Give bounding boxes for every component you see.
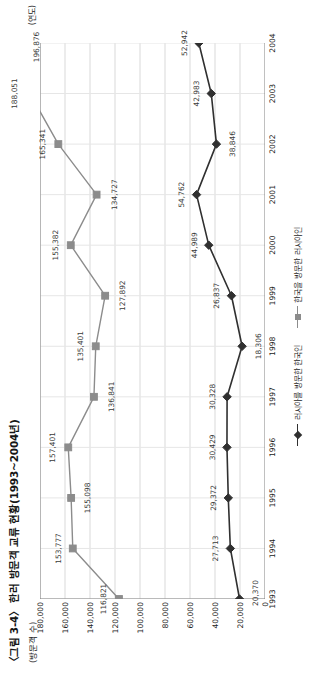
diamond-marker <box>223 443 231 451</box>
series-line-1 <box>40 43 119 599</box>
diamond-marker <box>227 292 235 300</box>
diamond-marker <box>224 494 232 502</box>
x-axis-tick-labels: 1993199419951996199719981999200020012002… <box>268 43 282 599</box>
square-marker <box>65 444 72 451</box>
legend-item-label: 러시아를 방문한 한국인 <box>292 345 303 420</box>
legend-item-1[interactable]: 러시아를 방문한 한국인 <box>292 345 303 446</box>
data-point-label: 153,777 <box>53 533 62 564</box>
x-axis-tick-label: 2002 <box>268 134 277 153</box>
diamond-marker <box>192 190 200 198</box>
x-axis-tick-label: 1994 <box>268 539 277 558</box>
data-point-label: 42,983 <box>192 81 201 107</box>
data-point-label: 30,429 <box>207 434 216 460</box>
y-axis-tick-label: 180,000 <box>36 602 45 633</box>
data-point-label: 27,713 <box>211 536 220 562</box>
x-axis-tick-label: 1993 <box>268 589 277 608</box>
square-marker <box>68 495 75 502</box>
diamond-marker <box>207 89 215 97</box>
x-axis-tick-label: 2004 <box>268 33 277 52</box>
data-point-label: 18,306 <box>254 333 263 359</box>
data-point-label: 136,841 <box>106 382 115 413</box>
legend-swatch <box>297 307 298 329</box>
x-axis-tick-label: 2001 <box>268 185 277 204</box>
data-point-label: 196,876 <box>31 32 40 63</box>
square-marker <box>102 292 109 299</box>
data-point-label: 29,372 <box>209 485 218 511</box>
square-marker <box>93 191 100 198</box>
figure-caption: 〈그림 3-4〉 한러 방문객 교류 현황(1993~2004년) <box>6 420 21 668</box>
diamond-marker <box>223 393 231 401</box>
diamond-marker <box>293 430 301 438</box>
diamond-marker <box>238 342 246 350</box>
series-line-2 <box>197 43 243 599</box>
y-axis-tick-label: 160,000 <box>61 602 70 633</box>
data-point-label: 157,401 <box>48 432 57 463</box>
y-axis-tick-label: 120,000 <box>111 602 120 633</box>
y-axis-tick-labels: 020,00040,00060,00080,000100,000120,0001… <box>40 602 265 647</box>
diamond-marker <box>205 241 213 249</box>
y-axis-tick-label: 40,000 <box>211 602 220 629</box>
data-point-label: 20,370 <box>250 580 259 606</box>
legend-item-2[interactable]: 한국을 방문한 러시아인 <box>292 227 303 328</box>
data-point-label: 135,401 <box>75 331 84 362</box>
square-marker <box>67 242 74 249</box>
rotated-page-wrapper: 〈그림 3-4〉 한러 방문객 교류 현황(1993~2004년) (방문객 수… <box>0 0 323 673</box>
y-axis-tick-label: 140,000 <box>86 602 95 633</box>
square-marker <box>116 596 123 599</box>
square-marker <box>295 315 301 321</box>
diamond-marker <box>212 140 220 148</box>
diamond-marker <box>195 43 203 47</box>
data-point-label: 134,727 <box>109 179 118 210</box>
y-axis-tick-label: 60,000 <box>186 602 195 629</box>
figure-container: 〈그림 3-4〉 한러 방문객 교류 현황(1993~2004년) (방문객 수… <box>0 0 323 673</box>
x-axis-unit-label: (연도) <box>26 5 37 25</box>
x-axis-tick-label: 2003 <box>268 84 277 103</box>
x-axis-tick-label: 1998 <box>268 337 277 356</box>
plot-area: 116,821153,777155,098157,401136,841135,4… <box>40 43 265 599</box>
data-point-label: 30,328 <box>208 384 217 410</box>
y-axis-tick-label: 80,000 <box>161 602 170 629</box>
data-point-label: 127,892 <box>118 280 127 311</box>
diamond-marker <box>235 595 243 599</box>
square-marker <box>69 545 76 552</box>
data-point-label: 44,989 <box>189 232 198 258</box>
data-point-label: 165,341 <box>38 129 47 160</box>
diamond-marker <box>226 544 234 552</box>
x-axis-tick-label: 1997 <box>268 387 277 406</box>
x-axis-tick-label: 2000 <box>268 236 277 255</box>
data-point-label: 26,837 <box>212 283 221 309</box>
x-axis-tick-label: 1999 <box>268 286 277 305</box>
legend-item-label: 한국을 방문한 러시아인 <box>292 227 303 302</box>
data-point-label: 116,821 <box>98 584 107 615</box>
legend-swatch <box>297 424 298 446</box>
data-point-label: 155,098 <box>83 483 92 514</box>
data-point-label: 54,762 <box>176 182 185 208</box>
y-axis-tick-label: 100,000 <box>136 602 145 633</box>
square-marker <box>55 141 62 148</box>
x-axis-tick-label: 1995 <box>268 488 277 507</box>
data-point-label: 38,846 <box>228 131 237 157</box>
chart-legend: 러시아를 방문한 한국인한국을 방문한 러시아인 <box>292 0 303 673</box>
data-point-label: 155,382 <box>50 230 59 261</box>
square-marker <box>91 393 98 400</box>
data-point-label: 52,942 <box>179 30 188 56</box>
x-axis-tick-label: 1996 <box>268 438 277 457</box>
square-marker <box>92 343 99 350</box>
y-axis-tick-label: 20,000 <box>236 602 245 629</box>
chart-svg <box>40 43 265 599</box>
data-point-label: 188,051 <box>9 78 18 109</box>
